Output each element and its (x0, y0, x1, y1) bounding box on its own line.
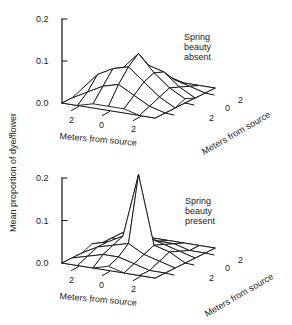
x-tick: 2 (131, 124, 136, 134)
y-axis-label: Mean proportion of dye/flower (8, 113, 18, 232)
y-tick: 2 (238, 255, 243, 265)
x-tick: 2 (69, 115, 74, 125)
panel-annotation: Spring beauty present (185, 196, 215, 226)
z-tick-0-1: 0.1 (36, 56, 49, 66)
annotation-line: beauty (184, 42, 211, 52)
z-tick-0-2: 0.2 (36, 173, 49, 183)
z-tick-0-2: 0.2 (36, 14, 49, 24)
x-tick: 0 (99, 120, 104, 130)
z-tick-0-0: 0.0 (36, 98, 49, 108)
panel-annotation: Spring beauty absent (184, 32, 211, 62)
y-tick: 2 (209, 113, 214, 123)
annotation-line: present (185, 216, 215, 226)
annotation-line: Spring (184, 32, 211, 42)
z-tick-0-1: 0.1 (36, 216, 49, 226)
y-tick: 2 (209, 273, 214, 283)
x-tick: 0 (99, 280, 104, 290)
y-tick: 0 (225, 103, 230, 113)
y-tick: 2 (238, 95, 243, 105)
annotation-line: absent (184, 52, 211, 62)
annotation-line: beauty (185, 206, 215, 216)
z-tick-0-0: 0.0 (36, 258, 49, 268)
annotation-line: Spring (185, 196, 215, 206)
x-tick: 2 (69, 275, 74, 285)
surface-plots (0, 0, 292, 325)
y-tick: 0 (225, 263, 230, 273)
figure: Mean proportion of dye/flower 0.2 0.1 0.… (0, 0, 292, 325)
x-tick: 2 (131, 284, 136, 294)
